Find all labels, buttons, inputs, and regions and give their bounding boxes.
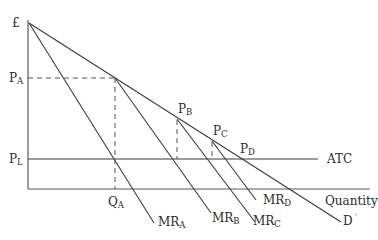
mr-a-curve [29,23,154,223]
demand-curve [29,23,341,222]
pc-label: PC [213,124,228,139]
mr-d-label: MRD [263,193,291,208]
pl-label: PL [9,152,23,167]
x-axis-label: Quantity [325,194,378,208]
mr-c-label: MRC [253,214,281,229]
pb-label: PB [178,102,192,117]
qa-label: QA [108,195,125,210]
pa-label: PA [9,71,24,86]
mr-a-label: MRA [158,215,186,230]
demand-label: D ′ [343,213,357,228]
y-axis-label: £ [12,16,20,30]
mr-b-label: MRB [212,211,240,226]
atc-label: ATC [326,152,352,166]
price-discrimination-diagram: £ PA PL PB PC PD QA ATC Quantity D ′ MRA… [0,0,378,240]
pd-label: PD [240,142,255,157]
